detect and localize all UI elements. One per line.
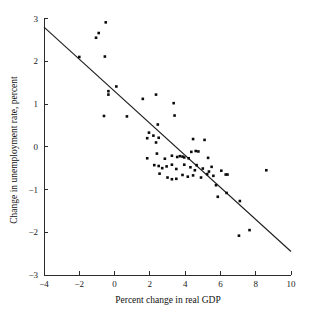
data-point xyxy=(212,175,215,178)
data-point xyxy=(238,234,241,237)
data-point xyxy=(95,36,98,39)
data-point xyxy=(107,93,110,96)
data-point xyxy=(157,165,160,168)
data-point xyxy=(171,163,174,166)
x-tick-label: 2 xyxy=(148,279,153,289)
data-point xyxy=(172,102,175,105)
data-point xyxy=(183,156,186,159)
data-point xyxy=(239,200,242,203)
data-point xyxy=(248,229,251,232)
data-point xyxy=(115,85,118,88)
data-point xyxy=(171,154,174,157)
y-axis-title: Change in unemployment rate, percent xyxy=(9,76,19,224)
data-point xyxy=(192,138,195,141)
y-tick-label: −2 xyxy=(28,227,38,237)
x-tick-label: −2 xyxy=(74,279,84,289)
data-point xyxy=(216,195,219,198)
data-point xyxy=(78,56,81,59)
data-point xyxy=(208,170,211,173)
y-tick-label: 0 xyxy=(34,142,39,152)
data-point xyxy=(195,164,198,167)
y-tick-label: −1 xyxy=(28,185,38,195)
data-point xyxy=(146,157,149,160)
x-tick-label: −4 xyxy=(39,279,49,289)
data-point xyxy=(186,175,189,178)
y-tick-label: −3 xyxy=(28,270,38,280)
data-point xyxy=(155,141,158,144)
data-point xyxy=(158,172,161,175)
data-point xyxy=(171,178,174,181)
data-point xyxy=(166,176,169,179)
y-tick-label: 3 xyxy=(34,14,39,24)
data-point xyxy=(156,152,159,155)
x-tick-label: 8 xyxy=(253,279,258,289)
data-point xyxy=(201,167,204,170)
data-point xyxy=(142,98,145,101)
data-point xyxy=(161,167,164,170)
data-point xyxy=(200,176,203,179)
data-point xyxy=(192,174,195,177)
data-point xyxy=(176,156,179,159)
data-point xyxy=(104,55,107,58)
data-point xyxy=(197,150,200,153)
data-point xyxy=(206,173,209,176)
data-point xyxy=(155,93,158,96)
x-tick-label: 0 xyxy=(112,279,117,289)
data-point xyxy=(210,166,213,169)
data-point xyxy=(175,178,178,181)
data-point xyxy=(190,151,193,154)
x-tick-label: 4 xyxy=(183,279,188,289)
x-tick-label: 6 xyxy=(218,279,223,289)
data-point xyxy=(165,165,168,168)
y-tick-label: 1 xyxy=(34,99,39,109)
data-point xyxy=(215,184,218,187)
data-point xyxy=(179,155,182,158)
scatter-plot-canvas: −4−20246810 −3−2−10123 Percent change in… xyxy=(0,0,315,324)
data-point xyxy=(181,174,184,177)
data-point xyxy=(220,169,223,172)
data-point xyxy=(173,114,176,117)
data-point xyxy=(207,157,210,160)
data-point xyxy=(153,164,156,167)
data-point xyxy=(226,173,229,176)
data-point xyxy=(107,90,110,93)
data-point xyxy=(148,131,151,134)
x-tick-label: 10 xyxy=(287,279,297,289)
data-point xyxy=(194,150,197,153)
data-point xyxy=(164,157,167,160)
data-point xyxy=(187,157,190,160)
data-point xyxy=(103,115,106,118)
okun-law-scatter-figure: −4−20246810 −3−2−10123 Percent change in… xyxy=(0,0,315,324)
data-point xyxy=(175,168,178,171)
y-tick-label: 2 xyxy=(34,56,39,66)
data-point xyxy=(183,163,186,166)
data-point xyxy=(157,123,160,126)
data-point xyxy=(157,136,160,139)
data-point xyxy=(203,139,206,142)
data-point xyxy=(189,166,192,169)
data-point xyxy=(194,169,197,172)
data-point xyxy=(225,192,228,195)
data-point xyxy=(152,134,155,137)
data-point xyxy=(97,32,100,35)
data-point xyxy=(265,169,268,172)
data-point xyxy=(146,137,149,140)
x-axis-title: Percent change in real GDP xyxy=(115,295,221,305)
data-point xyxy=(126,115,129,118)
data-point xyxy=(104,21,107,24)
